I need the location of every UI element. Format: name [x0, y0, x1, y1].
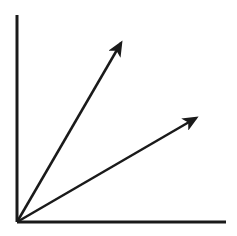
upper-vector-arrow: [17, 43, 121, 222]
lower-vector-arrow: [17, 118, 196, 222]
vector-diagram: [0, 0, 237, 236]
